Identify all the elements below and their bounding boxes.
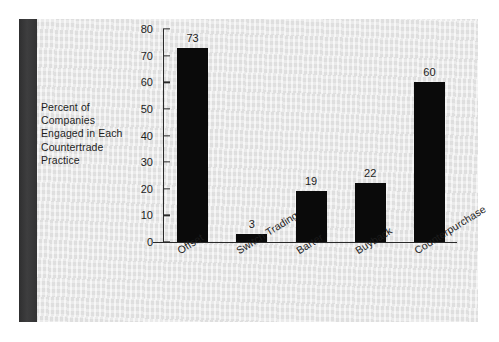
y-tick-label: 0 <box>147 236 153 248</box>
y-tick-mark <box>163 161 170 162</box>
y-tick-mark <box>163 28 170 29</box>
y-tick-mark <box>163 135 170 136</box>
y-axis-caption-line: Percent of <box>41 101 145 114</box>
y-tick-label: 40 <box>141 130 153 142</box>
book-spine-shadow <box>19 19 37 322</box>
y-tick-mark <box>163 188 170 189</box>
bar: 60 <box>414 82 445 242</box>
y-tick-label: 50 <box>141 103 153 115</box>
y-tick-label: 60 <box>141 76 153 88</box>
x-category-label: Switch Trading <box>234 209 300 256</box>
y-tick-mark <box>163 82 170 83</box>
plot-area: 0102030405060708073Offset3Switch Trading… <box>163 29 459 242</box>
bar: 73 <box>177 48 208 242</box>
y-tick-mark <box>163 108 170 109</box>
y-axis-caption-line: Countertrade <box>41 141 145 154</box>
y-axis-caption-line: Practice <box>41 154 145 167</box>
y-tick-label: 70 <box>141 50 153 62</box>
y-tick-label: 10 <box>141 209 153 221</box>
bar-value-label: 19 <box>305 175 317 187</box>
bar-chart: Percent ofCompaniesEngaged in EachCounte… <box>19 19 478 322</box>
y-tick-mark <box>163 241 170 242</box>
y-tick-label: 20 <box>141 183 153 195</box>
bar-value-label: 73 <box>186 32 198 44</box>
y-tick-mark <box>163 55 170 56</box>
bar-value-label: 3 <box>249 218 255 230</box>
y-axis-caption-line: Companies <box>41 114 145 127</box>
screenshot-canvas: Percent ofCompaniesEngaged in EachCounte… <box>0 0 499 342</box>
y-axis-caption-line: Engaged in Each <box>41 127 145 140</box>
y-tick-mark <box>163 215 170 216</box>
bar-value-label: 60 <box>423 66 435 78</box>
scanned-book-page: Percent ofCompaniesEngaged in EachCounte… <box>19 19 478 322</box>
y-axis-caption: Percent ofCompaniesEngaged in EachCounte… <box>41 101 145 167</box>
y-tick-label: 80 <box>141 23 153 35</box>
y-tick-label: 30 <box>141 156 153 168</box>
bar-value-label: 22 <box>364 167 376 179</box>
